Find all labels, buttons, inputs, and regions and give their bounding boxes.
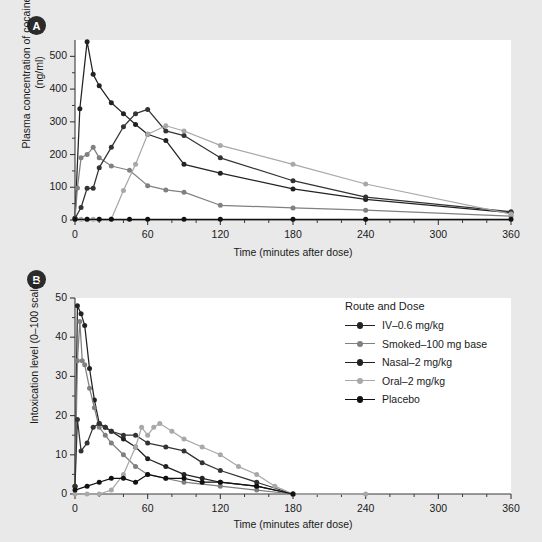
panel-b-data-point <box>73 488 78 493</box>
panel-a-data-point <box>109 145 114 150</box>
panel-a-data-point <box>133 122 138 127</box>
legend-swatch-icon <box>345 320 375 330</box>
panel-a-data-point <box>182 128 187 133</box>
panel-a-data-point <box>91 72 96 77</box>
panel-a-x-tick-label: 120 <box>200 228 240 240</box>
legend-title: Route and Dose <box>345 300 487 312</box>
panel-b-y-tick-label: 40 <box>33 330 67 342</box>
panel-a-data-point <box>77 106 82 111</box>
panel-a-y-tick-label: 0 <box>33 213 67 225</box>
panel-a-x-tick-label: 240 <box>346 228 386 240</box>
panel-b-x-axis-title: Time (minutes after dose) <box>75 518 511 530</box>
panel-b-data-point <box>87 366 92 371</box>
panel-b-data-point <box>272 484 277 489</box>
panel-b-data-point <box>121 452 126 457</box>
panel-b-data-point <box>79 311 84 316</box>
panel-a-data-point <box>121 188 126 193</box>
figure-container: A Plasma concentration of cocaine (ng/ml… <box>0 0 542 542</box>
panel-b-data-point <box>85 441 90 446</box>
panel-b-data-point <box>363 492 368 497</box>
panel-a-data-point <box>218 143 223 148</box>
panel-a-data-point <box>163 123 168 128</box>
legend-item-label: IV–0.6 mg/kg <box>382 319 444 331</box>
panel-b-data-point <box>145 441 150 446</box>
panel-a-data-point <box>218 217 223 222</box>
panel-b-data-point <box>200 444 205 449</box>
panel-a-data-point <box>97 217 102 222</box>
panel-a-data-point <box>97 165 102 170</box>
legend-item[interactable]: Placebo <box>345 393 487 405</box>
panel-a-data-point <box>133 162 138 167</box>
panel-a-y-tick-label: 400 <box>33 82 67 94</box>
panel-b-data-point <box>133 464 138 469</box>
panel-b-data-point <box>182 476 187 481</box>
panel-b-data-point <box>87 386 92 391</box>
panel-a-data-point <box>163 138 168 143</box>
panel-b-series-line <box>75 306 293 494</box>
panel-a-data-point <box>73 217 78 222</box>
panel-a-data-point <box>218 171 223 176</box>
panel-b-data-point <box>218 452 223 457</box>
panel-b-x-tick-label: 360 <box>491 502 531 514</box>
panel-a-data-point <box>291 217 296 222</box>
panel-a-data-point <box>509 217 514 222</box>
panel-a-data-point <box>127 168 132 173</box>
legend-item-label: Oral–2 mg/kg <box>382 375 445 387</box>
panel-b-data-point <box>291 492 296 497</box>
panel-b-y-tick-label: 10 <box>33 448 67 460</box>
panel-b-data-point <box>218 468 223 473</box>
panel-b-y-tick-label: 30 <box>33 369 67 381</box>
panel-a-x-tick-label: 300 <box>418 228 458 240</box>
panel-b-data-point <box>133 444 138 449</box>
legend-item[interactable]: Oral–2 mg/kg <box>345 375 487 387</box>
panel-a-data-point <box>109 164 114 169</box>
panel-b-x-tick-label: 300 <box>418 502 458 514</box>
panel-b-data-point <box>91 425 96 430</box>
panel-b-data-point <box>169 429 174 434</box>
panel-b-data-point <box>133 480 138 485</box>
panel-b-data-point <box>75 358 80 363</box>
panel-a-y-tick-label: 200 <box>33 148 67 160</box>
legend-item-label: Nasal–2 mg/kg <box>382 356 452 368</box>
panel-a-data-point <box>145 183 150 188</box>
panel-b-data-point <box>182 448 187 453</box>
panel-b-data-point <box>109 476 114 481</box>
legend-item[interactable]: IV–0.6 mg/kg <box>345 319 487 331</box>
panel-b-data-point <box>145 472 150 477</box>
panel-a-data-point <box>363 182 368 187</box>
panel-b-data-point <box>151 425 156 430</box>
panel-b-data-point <box>133 433 138 438</box>
panel-a-data-point <box>363 195 368 200</box>
panel-b-data-point <box>218 480 223 485</box>
panel-b-data-point <box>121 433 126 438</box>
panel-a: A Plasma concentration of cocaine (ng/ml… <box>0 0 542 262</box>
legend-item[interactable]: Nasal–2 mg/kg <box>345 356 487 368</box>
legend-item[interactable]: Smoked–100 mg base <box>345 338 487 350</box>
panel-a-data-point <box>75 185 80 190</box>
panel-b-data-point <box>236 464 241 469</box>
legend-swatch-icon <box>345 357 375 367</box>
legend-item-label: Placebo <box>382 393 420 405</box>
panel-b-y-tick-label: 20 <box>33 409 67 421</box>
panel-a-data-point <box>109 217 114 222</box>
panel-a-y-tick-label: 100 <box>33 180 67 192</box>
panel-a-data-point <box>121 111 126 116</box>
panel-b-data-point <box>75 303 80 308</box>
panel-b-data-point <box>121 476 126 481</box>
panel-b-x-tick-label: 240 <box>346 502 386 514</box>
panel-b-y-tick-label: 50 <box>33 291 67 303</box>
panel-a-data-point <box>509 212 514 217</box>
panel-b-data-point <box>163 476 168 481</box>
panel-a-data-point <box>79 155 84 160</box>
panel-a-data-point <box>182 133 187 138</box>
panel-b-x-tick-label: 180 <box>273 502 313 514</box>
panel-a-data-point <box>85 186 90 191</box>
panel-a-data-point <box>91 186 96 191</box>
panel-b-x-tick-label: 0 <box>55 502 95 514</box>
legend: Route and Dose IV–0.6 mg/kgSmoked–100 mg… <box>345 300 487 412</box>
panel-a-data-point <box>182 162 187 167</box>
panel-b-data-point <box>254 484 259 489</box>
panel-b-data-point <box>182 437 187 442</box>
panel-a-data-point <box>97 83 102 88</box>
panel-a-data-point <box>163 187 168 192</box>
